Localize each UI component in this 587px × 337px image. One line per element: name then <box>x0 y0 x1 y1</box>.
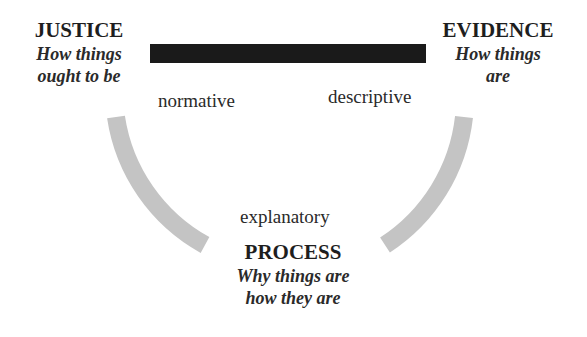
descriptive-label: descriptive <box>328 86 411 108</box>
evidence-subtitle-line2: are <box>433 65 563 87</box>
process-node: PROCESS Why things are how they are <box>213 240 373 309</box>
justice-subtitle-line2: ought to be <box>20 65 138 87</box>
evidence-subtitle-line1: How things <box>433 43 563 65</box>
justice-subtitle-line1: How things <box>20 43 138 65</box>
evidence-node: EVIDENCE How things are <box>433 18 563 87</box>
justice-title: JUSTICE <box>20 18 138 43</box>
normative-label: normative <box>158 90 235 112</box>
evidence-process-arc <box>385 117 464 245</box>
process-title: PROCESS <box>213 240 373 265</box>
justice-node: JUSTICE How things ought to be <box>20 18 138 87</box>
evidence-title: EVIDENCE <box>433 18 563 43</box>
explanatory-label: explanatory <box>240 206 330 228</box>
process-subtitle-line2: how they are <box>213 287 373 309</box>
justice-process-arc <box>116 117 205 245</box>
process-subtitle-line1: Why things are <box>213 265 373 287</box>
justice-evidence-bar <box>150 44 426 63</box>
